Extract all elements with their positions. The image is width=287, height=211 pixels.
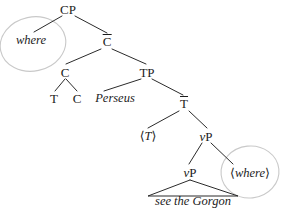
branch-tp-to-perseus: [104, 79, 141, 91]
node-vp-upper-rest: P: [205, 129, 212, 144]
branch-c-to-t-head: [55, 79, 65, 91]
branch-cbar-to-tp: [112, 49, 146, 64]
branch-vp-upper-to-vp-lower: [189, 143, 202, 164]
node-t-bar[interactable]: T: [180, 96, 188, 110]
trace-close-bracket: ⟩: [151, 129, 156, 143]
node-vp-lower[interactable]: vP: [183, 166, 196, 179]
node-vp-lower-rest: P: [189, 165, 196, 180]
branch-c-to-c-head: [66, 79, 77, 91]
node-t-head[interactable]: T: [50, 92, 58, 105]
node-t-bar-label: T: [180, 96, 188, 110]
branch-tbar-to-t-trace: [148, 111, 179, 128]
where-trace-close-bracket: ⟩: [265, 166, 270, 180]
node-c-complex[interactable]: C: [61, 66, 70, 79]
node-perseus[interactable]: Perseus: [95, 92, 135, 105]
branch-cp-to-cbar: [75, 16, 107, 33]
syntax-tree-figure: CP where C C T C TP Perseus T ⟨T⟩ vP vP …: [0, 0, 287, 211]
node-where-trace[interactable]: ⟨where⟩: [230, 167, 270, 180]
node-cp[interactable]: CP: [60, 3, 76, 16]
node-c-bar[interactable]: C: [103, 34, 112, 48]
node-where-trace-label: where: [235, 166, 265, 180]
node-tp[interactable]: TP: [139, 66, 154, 79]
node-t-trace[interactable]: ⟨T⟩: [140, 130, 157, 143]
node-t-trace-label: T: [145, 129, 152, 143]
node-vp-phrase[interactable]: see the Gorgon: [155, 195, 231, 208]
branch-cbar-to-c: [66, 49, 101, 64]
branch-tp-to-tbar: [152, 79, 183, 95]
tree-branches: [34, 16, 238, 196]
node-c-head[interactable]: C: [73, 92, 82, 105]
branch-tbar-to-vp-upper: [189, 111, 207, 128]
node-vp-upper[interactable]: vP: [199, 130, 212, 143]
node-c-bar-label: C: [103, 34, 112, 48]
node-where-moved[interactable]: where: [16, 34, 46, 47]
